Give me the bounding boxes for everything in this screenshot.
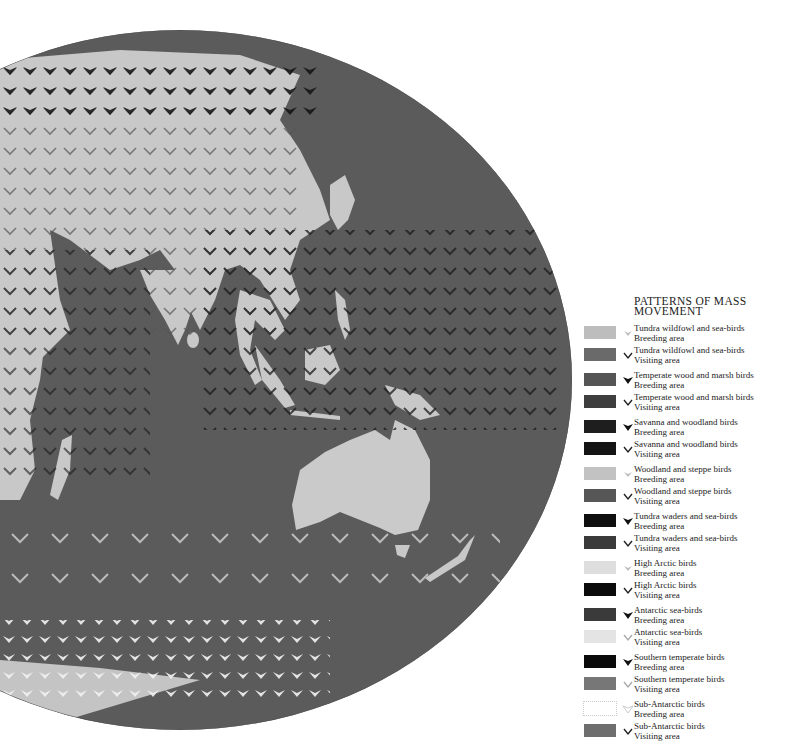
- breeding-arrow-icon: [622, 466, 634, 478]
- legend-label: Southern temperate birdsBreeding area: [634, 652, 724, 672]
- legend-swatch: [584, 395, 616, 408]
- southern-ocean-visiting-pattern: [0, 510, 500, 610]
- legend-label: Tundra wildfowl and sea-birdsVisiting ar…: [634, 345, 744, 365]
- legend-area-type: Visiting area: [634, 684, 724, 694]
- legend-item: Sub-Antarctic birdsBreeding area: [584, 699, 789, 721]
- legend-swatch: [584, 489, 616, 502]
- legend-title: PATTERNS OF MASS MOVEMENT: [634, 296, 789, 316]
- legend-area-type: Visiting area: [634, 402, 754, 412]
- legend-area-type: Visiting area: [634, 637, 702, 647]
- legend-swatch: [584, 467, 616, 480]
- breeding-arrow-icon: [622, 560, 634, 572]
- legend-group-name: Tundra wildfowl and sea-birds: [634, 323, 744, 333]
- legend-label: High Arctic birdsBreeding area: [634, 558, 697, 578]
- breeding-arrow-icon: [622, 607, 634, 619]
- visiting-chevron-icon: [622, 582, 634, 594]
- legend-label: Temperate wood and marsh birdsVisiting a…: [634, 392, 754, 412]
- legend-area-type: Visiting area: [634, 543, 737, 553]
- breeding-arrow-icon: [622, 372, 634, 384]
- visiting-chevron-icon: [622, 629, 634, 641]
- arabian-sea-pattern: [0, 250, 150, 480]
- legend-item: Temperate wood and marsh birdsVisiting a…: [584, 392, 789, 414]
- legend-group-name: Temperate wood and marsh birds: [634, 392, 754, 402]
- legend-group-name: High Arctic birds: [634, 580, 697, 590]
- legend-group-name: Woodland and steppe birds: [634, 464, 732, 474]
- legend-item: Sub-Antarctic birdsVisiting area: [584, 721, 789, 743]
- legend-swatch: [584, 442, 616, 455]
- legend-label: Woodland and steppe birdsVisiting area: [634, 486, 732, 506]
- legend-item: Tundra waders and sea-birdsVisiting area: [584, 533, 789, 555]
- legend-item: Southern temperate birdsBreeding area: [584, 652, 789, 674]
- legend-swatch: [584, 536, 616, 549]
- legend-area-type: Visiting area: [634, 355, 744, 365]
- visiting-chevron-icon: [622, 347, 634, 359]
- legend-title-line2: MOVEMENT: [634, 306, 789, 316]
- legend-item: High Arctic birdsBreeding area: [584, 558, 789, 580]
- legend-group-name: Sub-Antarctic birds: [634, 699, 705, 709]
- visiting-chevron-icon: [622, 723, 634, 735]
- legend-items: Tundra wildfowl and sea-birdsBreeding ar…: [584, 323, 789, 743]
- ocean-visiting-pattern: [200, 230, 560, 430]
- legend-group-name: Temperate wood and marsh birds: [634, 370, 754, 380]
- legend-item: Tundra waders and sea-birdsBreeding area: [584, 511, 789, 533]
- sub-antarctic-breeding-pattern: [0, 620, 330, 700]
- legend-area-type: Breeding area: [634, 380, 754, 390]
- legend-label: High Arctic birdsVisiting area: [634, 580, 697, 600]
- legend-label: Southern temperate birdsVisiting area: [634, 674, 724, 694]
- legend-label: Sub-Antarctic birdsVisiting area: [634, 721, 705, 741]
- legend-label: Savanna and woodland birdsBreeding area: [634, 417, 738, 437]
- legend-swatch: [584, 420, 616, 433]
- visiting-chevron-icon: [622, 441, 634, 453]
- legend-item: Tundra wildfowl and sea-birdsVisiting ar…: [584, 345, 789, 367]
- legend-label: Sub-Antarctic birdsBreeding area: [634, 699, 705, 719]
- legend-swatch: [584, 724, 616, 737]
- legend-swatch: [584, 348, 616, 361]
- legend-swatch: [584, 561, 616, 574]
- legend-label: Tundra waders and sea-birdsBreeding area: [634, 511, 737, 531]
- breeding-arrow-icon: [622, 654, 634, 666]
- breeding-arrow-icon: [622, 419, 634, 431]
- legend-item: Antarctic sea-birdsBreeding area: [584, 605, 789, 627]
- legend-item: Tundra wildfowl and sea-birdsBreeding ar…: [584, 323, 789, 345]
- visiting-chevron-icon: [622, 394, 634, 406]
- legend-group-name: Tundra waders and sea-birds: [634, 511, 737, 521]
- legend-group-name: Southern temperate birds: [634, 674, 724, 684]
- legend-label: Temperate wood and marsh birdsBreeding a…: [634, 370, 754, 390]
- legend-item: Savanna and woodland birdsVisiting area: [584, 439, 789, 461]
- visiting-chevron-icon: [622, 488, 634, 500]
- visiting-chevron-icon: [622, 535, 634, 547]
- high-arctic-breeding-pattern: [0, 55, 320, 115]
- legend-group-name: Southern temperate birds: [634, 652, 724, 662]
- legend-swatch: [584, 583, 616, 596]
- breeding-arrow-icon: [622, 513, 634, 525]
- legend-group-name: Antarctic sea-birds: [634, 627, 702, 637]
- legend-group-name: Savanna and woodland birds: [634, 439, 738, 449]
- legend-area-type: Breeding area: [634, 662, 724, 672]
- legend-swatch: [584, 677, 616, 690]
- legend-area-type: Breeding area: [634, 333, 744, 343]
- legend-swatch: [584, 373, 616, 386]
- legend-area-type: Breeding area: [634, 521, 737, 531]
- legend-item: Woodland and steppe birdsBreeding area: [584, 464, 789, 486]
- legend-group-name: Savanna and woodland birds: [634, 417, 738, 427]
- legend-swatch: [584, 655, 616, 668]
- legend-group-name: Tundra wildfowl and sea-birds: [634, 345, 744, 355]
- legend-swatch: [584, 326, 616, 339]
- legend-area-type: Breeding area: [634, 474, 732, 484]
- legend-area-type: Breeding area: [634, 427, 738, 437]
- legend-item: Temperate wood and marsh birdsBreeding a…: [584, 370, 789, 392]
- legend-swatch: [584, 608, 616, 621]
- legend-label: Tundra waders and sea-birdsVisiting area: [634, 533, 737, 553]
- legend-label: Woodland and steppe birdsBreeding area: [634, 464, 732, 484]
- legend-swatch: [584, 514, 616, 527]
- legend-swatch: [584, 702, 616, 715]
- legend-area-type: Visiting area: [634, 449, 738, 459]
- legend: PATTERNS OF MASS MOVEMENT Tundra wildfow…: [584, 296, 789, 743]
- visiting-chevron-icon: [622, 676, 634, 688]
- legend-swatch: [584, 630, 616, 643]
- legend-group-name: High Arctic birds: [634, 558, 697, 568]
- legend-item: Woodland and steppe birdsVisiting area: [584, 486, 789, 508]
- legend-area-type: Visiting area: [634, 496, 732, 506]
- legend-area-type: Visiting area: [634, 731, 705, 741]
- breeding-arrow-icon: [622, 325, 634, 337]
